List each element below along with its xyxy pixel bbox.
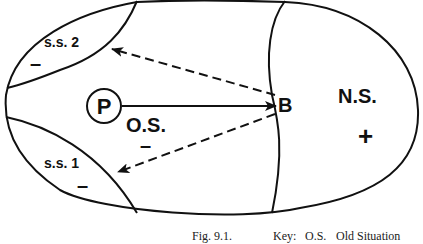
region-ns-label: N.S.: [338, 85, 377, 107]
region-os-sign: –: [140, 134, 151, 156]
region-ss1-sign: –: [77, 174, 88, 196]
node-b-label: B: [278, 94, 292, 116]
region-ss2-label: s.s. 2: [44, 34, 79, 50]
region-os-label: O.S.: [126, 114, 166, 136]
key-abbr-os: O.S.: [305, 229, 326, 243]
key-meaning-os: Old Situation: [336, 229, 400, 243]
figure-diagram: P B s.s. 2 – s.s. 1 – O.S. – N.S. + Fig.…: [0, 0, 423, 244]
region-ss1-label: s.s. 1: [44, 155, 79, 171]
region-ss2-sign: –: [30, 52, 41, 74]
region-ns-sign: +: [358, 121, 373, 151]
figure-caption: Fig. 9.1.: [192, 229, 232, 243]
key-label: Key:: [273, 229, 296, 243]
outer-boundary: [6, 1, 418, 215]
arrow-b-to-ss2: [112, 49, 275, 95]
node-p-label: P: [97, 94, 112, 119]
